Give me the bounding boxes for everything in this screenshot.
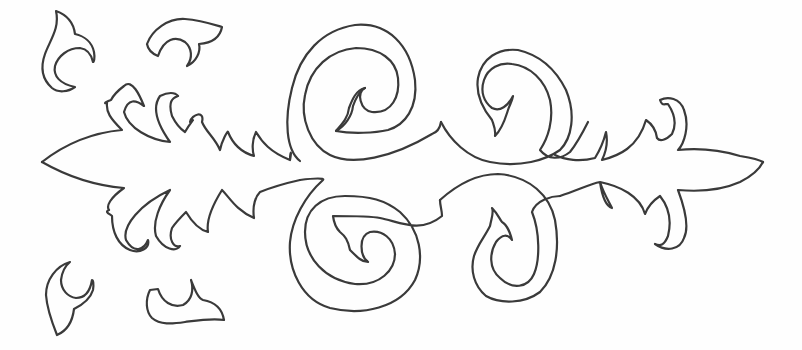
spiral-lower-right (440, 174, 560, 302)
leaf-fragment-top-left-b (147, 19, 222, 66)
band-lower-left-edge (42, 162, 300, 251)
spiral-lower-left (290, 179, 442, 311)
ornament-drawing (0, 0, 802, 350)
ornament-canvas (0, 0, 802, 350)
band-upper-left-edge (42, 84, 291, 162)
leaf-fragment-bottom-left-b (147, 280, 224, 323)
band-lower-right-edge (560, 162, 763, 249)
leaf-fragment-top-left-a (43, 11, 95, 91)
spiral-upper-left (287, 25, 441, 161)
band-upper-right-edge (555, 98, 763, 162)
spiral-upper-right (441, 50, 588, 164)
leaf-fragment-bottom-left-a (46, 262, 93, 335)
